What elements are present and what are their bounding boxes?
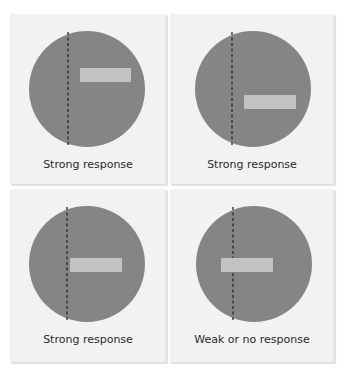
receptive-field-diagram (170, 14, 334, 164)
response-label: Strong response (10, 333, 166, 346)
receptive-field-circle (29, 31, 145, 147)
response-label: Strong response (170, 158, 334, 171)
stimulus-bar (80, 68, 131, 82)
panel-bottom-left: Strong response (10, 189, 166, 362)
receptive-field-diagram (170, 189, 334, 339)
response-label: Strong response (10, 158, 166, 171)
stimulus-bar (70, 258, 122, 272)
receptive-field-circle (195, 31, 311, 147)
response-label: Weak or no response (170, 333, 334, 346)
receptive-field-figure: Strong response Strong response Strong r… (10, 14, 334, 362)
stimulus-bar (244, 95, 296, 109)
panel-top-right: Strong response (170, 14, 334, 184)
panel-top-left: Strong response (10, 14, 166, 184)
receptive-field-diagram (10, 14, 166, 164)
panel-bottom-right: Weak or no response (170, 189, 334, 362)
stimulus-bar (221, 258, 273, 272)
receptive-field-diagram (10, 189, 166, 339)
